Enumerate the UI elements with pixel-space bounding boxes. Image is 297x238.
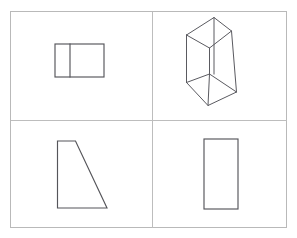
figure-container (0, 0, 297, 238)
multiview-drawing-svg (0, 0, 297, 238)
prism-bottom-center-edge (208, 74, 210, 106)
top-view-rectangle (55, 44, 104, 77)
prism-bottom-face (187, 74, 237, 106)
panel-top-left-shape (55, 44, 104, 77)
outer-border (11, 12, 287, 228)
prism-top-face (187, 18, 232, 49)
panel-top-right-shape (187, 18, 237, 106)
front-view-rectangle (204, 139, 238, 209)
panel-bottom-left-shape (58, 141, 108, 208)
side-view-trapezoid (58, 141, 108, 208)
panel-bottom-right-shape (204, 139, 238, 209)
prism-edge-right-slant (232, 31, 237, 92)
